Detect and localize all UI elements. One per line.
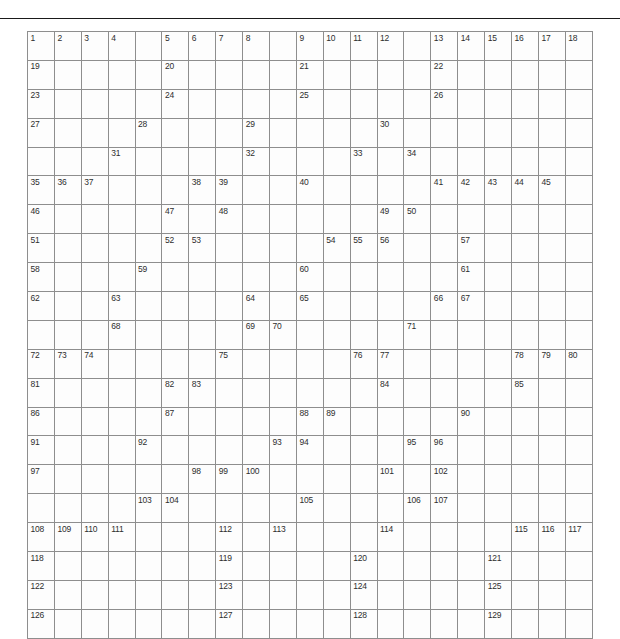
crossword-cell[interactable]: 4 <box>108 32 135 61</box>
crossword-cell[interactable] <box>565 465 592 494</box>
crossword-cell[interactable] <box>108 89 135 118</box>
crossword-cell[interactable] <box>81 552 108 581</box>
crossword-cell[interactable] <box>377 407 404 436</box>
crossword-cell[interactable] <box>565 263 592 292</box>
crossword-cell[interactable]: 90 <box>458 407 485 436</box>
crossword-cell[interactable] <box>108 118 135 147</box>
crossword-cell[interactable]: 79 <box>538 349 565 378</box>
crossword-cell[interactable] <box>431 118 458 147</box>
crossword-cell[interactable] <box>216 234 243 263</box>
crossword-cell[interactable] <box>81 378 108 407</box>
crossword-shaded-cell[interactable]: 39 <box>216 176 243 205</box>
crossword-cell[interactable] <box>189 436 216 465</box>
crossword-cell[interactable] <box>458 118 485 147</box>
crossword-shaded-cell[interactable] <box>377 176 404 205</box>
crossword-cell[interactable] <box>565 580 592 609</box>
crossword-cell[interactable] <box>512 89 539 118</box>
crossword-shaded-cell[interactable]: 87 <box>162 407 189 436</box>
crossword-cell[interactable] <box>296 580 323 609</box>
crossword-shaded-cell[interactable]: 60 <box>296 263 323 292</box>
crossword-cell[interactable]: 112 <box>216 523 243 552</box>
crossword-cell[interactable] <box>512 609 539 638</box>
crossword-cell[interactable] <box>538 552 565 581</box>
crossword-cell[interactable] <box>108 407 135 436</box>
crossword-cell[interactable]: 59 <box>135 263 162 292</box>
crossword-cell[interactable]: 96 <box>431 436 458 465</box>
crossword-cell[interactable]: 83 <box>189 378 216 407</box>
crossword-shaded-cell[interactable] <box>270 176 297 205</box>
crossword-cell[interactable] <box>323 89 350 118</box>
crossword-cell[interactable] <box>323 60 350 89</box>
crossword-cell[interactable] <box>512 436 539 465</box>
crossword-cell[interactable] <box>216 263 243 292</box>
crossword-cell[interactable] <box>296 552 323 581</box>
crossword-cell[interactable]: 10 <box>323 32 350 61</box>
crossword-cell[interactable]: 58 <box>28 263 55 292</box>
crossword-cell[interactable]: 124 <box>350 580 377 609</box>
crossword-cell[interactable]: 57 <box>458 234 485 263</box>
crossword-cell[interactable] <box>485 60 512 89</box>
crossword-shaded-cell[interactable] <box>243 176 270 205</box>
crossword-cell[interactable] <box>538 205 565 234</box>
crossword-cell[interactable] <box>270 609 297 638</box>
crossword-cell[interactable]: 77 <box>377 349 404 378</box>
crossword-cell[interactable]: 34 <box>404 147 431 176</box>
crossword-cell[interactable]: 15 <box>485 32 512 61</box>
crossword-cell[interactable]: 19 <box>28 60 55 89</box>
crossword-cell[interactable] <box>243 552 270 581</box>
crossword-cell[interactable]: 41 <box>431 176 458 205</box>
crossword-cell[interactable] <box>81 580 108 609</box>
crossword-cell[interactable] <box>216 89 243 118</box>
crossword-cell[interactable] <box>458 378 485 407</box>
crossword-cell[interactable] <box>108 552 135 581</box>
crossword-cell[interactable] <box>54 205 81 234</box>
crossword-cell[interactable]: 107 <box>431 494 458 523</box>
crossword-cell[interactable]: 9 <box>296 32 323 61</box>
crossword-cell[interactable]: 6 <box>189 32 216 61</box>
crossword-cell[interactable] <box>81 263 108 292</box>
crossword-cell[interactable] <box>404 349 431 378</box>
crossword-cell[interactable]: 18 <box>565 32 592 61</box>
crossword-cell[interactable]: 42 <box>458 176 485 205</box>
crossword-cell[interactable] <box>270 118 297 147</box>
crossword-cell[interactable] <box>243 494 270 523</box>
crossword-cell[interactable] <box>323 263 350 292</box>
crossword-cell[interactable] <box>485 407 512 436</box>
crossword-cell[interactable] <box>243 205 270 234</box>
crossword-shaded-cell[interactable]: 47 <box>162 205 189 234</box>
crossword-cell[interactable] <box>565 407 592 436</box>
crossword-cell[interactable] <box>350 263 377 292</box>
crossword-cell[interactable] <box>565 205 592 234</box>
crossword-cell[interactable]: 35 <box>28 176 55 205</box>
crossword-cell[interactable] <box>565 609 592 638</box>
crossword-cell[interactable]: 3 <box>81 32 108 61</box>
crossword-cell[interactable] <box>54 234 81 263</box>
crossword-shaded-cell[interactable]: 40 <box>296 176 323 205</box>
crossword-cell[interactable]: 20 <box>162 60 189 89</box>
crossword-cell[interactable] <box>538 118 565 147</box>
crossword-cell[interactable]: 36 <box>54 176 81 205</box>
crossword-cell[interactable] <box>135 580 162 609</box>
crossword-cell[interactable] <box>108 580 135 609</box>
crossword-cell[interactable] <box>377 292 404 321</box>
crossword-cell[interactable] <box>162 580 189 609</box>
crossword-shaded-cell[interactable] <box>431 320 458 349</box>
crossword-cell[interactable]: 115 <box>512 523 539 552</box>
crossword-cell[interactable] <box>404 552 431 581</box>
crossword-cell[interactable] <box>108 234 135 263</box>
crossword-shaded-cell[interactable]: 95 <box>404 436 431 465</box>
crossword-cell[interactable] <box>296 147 323 176</box>
crossword-cell[interactable] <box>350 436 377 465</box>
crossword-shaded-cell[interactable] <box>162 292 189 321</box>
crossword-shaded-cell[interactable] <box>323 176 350 205</box>
crossword-cell[interactable] <box>458 494 485 523</box>
crossword-cell[interactable] <box>404 118 431 147</box>
crossword-cell[interactable] <box>485 234 512 263</box>
crossword-cell[interactable] <box>54 378 81 407</box>
crossword-cell[interactable] <box>54 292 81 321</box>
crossword-shaded-cell[interactable] <box>404 407 431 436</box>
crossword-cell[interactable]: 81 <box>28 378 55 407</box>
crossword-cell[interactable]: 89 <box>323 407 350 436</box>
crossword-shaded-cell[interactable] <box>162 263 189 292</box>
crossword-cell[interactable] <box>485 320 512 349</box>
